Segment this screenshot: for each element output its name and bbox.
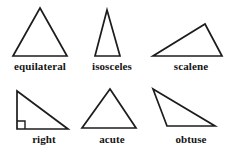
isosceles-triangle-shape (95, 10, 120, 56)
equilateral-triangle-shape (13, 8, 67, 56)
obtuse-triangle-label: obtuse (152, 133, 230, 145)
equilateral-triangle-label: equilateral (2, 60, 78, 72)
right-triangle-shape (17, 91, 68, 129)
obtuse-triangle-shape (153, 89, 215, 126)
scalene-triangle-label: scalene (152, 60, 230, 72)
right-triangle-label: right (8, 133, 80, 145)
right-angle-mark-icon (17, 121, 25, 129)
acute-triangle-shape (82, 89, 136, 128)
triangle-shapes-canvas (0, 0, 232, 152)
isosceles-triangle-label: isosceles (76, 60, 148, 72)
triangle-types-diagram: equilateral isosceles scalene right acut… (0, 0, 232, 152)
acute-triangle-label: acute (76, 133, 148, 145)
scalene-triangle-shape (153, 24, 222, 56)
